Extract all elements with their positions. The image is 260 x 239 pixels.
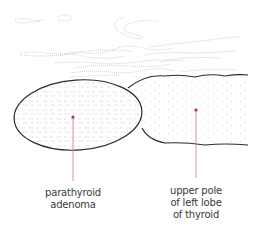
wisp	[75, 64, 170, 68]
connective-tissue-wisps	[15, 15, 240, 77]
thyroid-upper-pole	[128, 75, 248, 145]
adenoma-fill	[14, 80, 142, 150]
wisp	[20, 50, 134, 54]
label-line: of thyroid	[151, 209, 241, 221]
wisp	[180, 69, 235, 72]
label-line: of left lobe	[151, 197, 241, 209]
wisp	[60, 46, 173, 56]
wisp	[20, 54, 125, 58]
wisp	[150, 37, 240, 47]
wisp	[115, 17, 159, 39]
pointer-dot	[194, 108, 197, 111]
pointer-dot	[71, 115, 74, 118]
wisp	[145, 51, 235, 55]
wisp	[70, 75, 120, 77]
parathyroid-adenoma	[12, 76, 145, 155]
wisp	[15, 21, 41, 23]
label-line: upper pole	[151, 185, 241, 197]
label-line: parathyroid	[33, 187, 113, 199]
wisp	[55, 60, 185, 64]
label-parathyroid-adenoma: parathyroid adenoma	[33, 187, 113, 211]
wisp	[58, 15, 72, 21]
wisp	[70, 69, 175, 73]
label-line: adenoma	[33, 199, 113, 211]
wisp	[15, 19, 45, 21]
label-thyroid-upper-pole: upper pole of left lobe of thyroid	[151, 185, 241, 221]
